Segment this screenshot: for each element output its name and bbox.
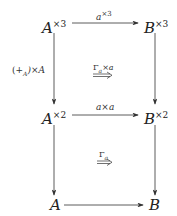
label-top-arrow: a×3 xyxy=(96,10,112,22)
node-a: A xyxy=(50,198,61,213)
node-b-squared: B×2 xyxy=(144,108,168,127)
node-base: B xyxy=(149,196,160,214)
label-middle-arrow: a×a xyxy=(96,103,114,112)
node-b: B xyxy=(149,198,160,213)
label-sup: ×3 xyxy=(101,10,111,18)
node-a-cubed: A×3 xyxy=(42,17,66,36)
node-base: A xyxy=(42,19,53,37)
node-base: B xyxy=(144,19,155,37)
node-base: B xyxy=(144,110,155,128)
label-pre: (+ xyxy=(12,65,23,75)
label-left-upper-arrow: (+A)×A xyxy=(12,66,45,78)
label-post: ×a xyxy=(102,63,113,72)
node-sup: ×3 xyxy=(53,19,66,29)
node-b-cubed: B×3 xyxy=(144,17,168,36)
node-base: A xyxy=(42,110,53,128)
node-a-squared: A×2 xyxy=(42,108,66,127)
node-base: A xyxy=(50,196,61,214)
node-sup: ×3 xyxy=(155,19,168,29)
label-two-cell-upper: Γa×a xyxy=(93,63,114,75)
node-sup: ×2 xyxy=(155,110,168,120)
label-post: )×A xyxy=(27,65,45,75)
label-two-cell-lower: Γa xyxy=(99,150,108,162)
label-sub: a xyxy=(105,154,109,161)
node-sup: ×2 xyxy=(53,110,66,120)
